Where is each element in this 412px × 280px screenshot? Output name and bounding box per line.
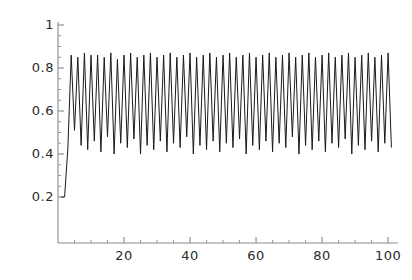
y-axis-tick-label: 0.8: [32, 61, 54, 74]
chart-plot-area: 0.20.40.60.81 20406080100: [0, 0, 412, 280]
x-axis-tick-label: 100: [358, 249, 412, 262]
y-axis-tick-label: 0.6: [32, 104, 54, 117]
x-axis-tick-label: 80: [292, 249, 352, 262]
y-axis-major-ticks: [58, 25, 64, 197]
y-axis-tick-label: 1: [45, 18, 54, 31]
x-axis-tick-label: 20: [94, 249, 154, 262]
x-axis-tick-label: 60: [226, 249, 286, 262]
y-axis-tick-label: 0.2: [32, 190, 54, 203]
x-axis-tick-label: 40: [160, 249, 220, 262]
axes-group: [58, 22, 398, 243]
x-axis-major-ticks: [124, 237, 388, 243]
chart-canvas: [0, 0, 412, 280]
data-series-line: [61, 53, 391, 197]
y-axis-tick-label: 0.4: [32, 147, 54, 160]
